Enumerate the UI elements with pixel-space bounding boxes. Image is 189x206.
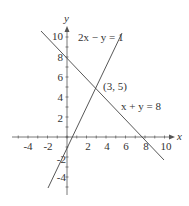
y-tick-label: 2 xyxy=(58,112,64,124)
intersection-label: (3, 5) xyxy=(103,80,127,93)
eq2-label: x + y = 8 xyxy=(121,100,161,112)
y-tick-label: 8 xyxy=(58,51,64,63)
y-tick-label: -4 xyxy=(57,171,67,183)
x-tick-label: -2 xyxy=(43,140,52,152)
x-tick-label: 10 xyxy=(161,140,173,152)
y-axis-arrow-icon xyxy=(65,26,70,32)
y-axis-label: y xyxy=(63,12,69,24)
x-axis-arrow-icon xyxy=(169,135,175,140)
graph: -4 -2 2 4 6 8 10 10 8 6 4 2 -2 -4 x y 2x… xyxy=(0,0,189,206)
y-tick-label: 6 xyxy=(58,71,64,83)
eq1-label: 2x − y = 1 xyxy=(78,31,123,43)
x-tick-label: 4 xyxy=(104,140,110,152)
x-tick-label: 6 xyxy=(123,140,129,152)
x-tick-label: -4 xyxy=(23,140,33,152)
y-tick-label: 10 xyxy=(52,30,64,42)
y-tick-label: 4 xyxy=(58,91,64,103)
x-axis-label: x xyxy=(176,130,182,142)
x-tick-labels: -4 -2 2 4 6 8 10 xyxy=(23,140,172,152)
x-tick-label: 2 xyxy=(85,140,91,152)
y-tick-labels: 10 8 6 4 2 -2 -4 xyxy=(52,30,66,183)
